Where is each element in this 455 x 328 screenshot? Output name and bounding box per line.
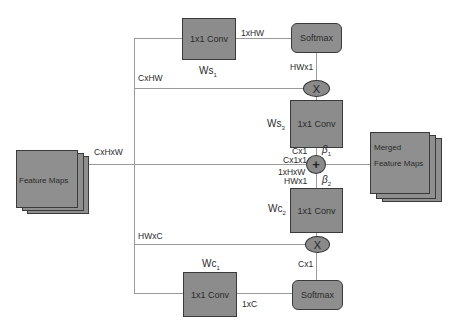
channel-softmax-to-multiply-line bbox=[316, 253, 317, 280]
spatial-skip-dims-label: CxHW bbox=[138, 73, 163, 83]
channel-multiply-node: X bbox=[305, 236, 330, 253]
channel-softmax-label: Softmax bbox=[301, 290, 334, 300]
main-horizontal-line bbox=[89, 164, 375, 165]
channel-conv2-in-dims-label: HWx1 bbox=[284, 176, 307, 186]
channel-conv1-label: 1x1 Conv bbox=[191, 290, 229, 300]
channel-conv1-out-dims-label: 1xC bbox=[242, 299, 257, 309]
spatial-softmax-out-dims-label: HWx1 bbox=[290, 62, 313, 72]
channel-conv2-label: 1x1 Conv bbox=[297, 206, 335, 216]
spatial-softmax-to-multiply-line bbox=[316, 53, 317, 81]
spatial-multiply-node: X bbox=[303, 80, 330, 97]
channel-conv2-weight-label: Wc2 bbox=[268, 203, 286, 216]
trunk-vertical-line bbox=[134, 38, 135, 294]
channel-skip-dims-label: HWxC bbox=[138, 231, 163, 241]
channel-conv1-weight-label: Wc1 bbox=[202, 258, 220, 271]
beta1-label: β1 bbox=[322, 144, 331, 157]
bottom-branch-line bbox=[134, 293, 183, 294]
multiply-icon: X bbox=[313, 83, 320, 95]
channel-conv1-box: 1x1 Conv bbox=[183, 272, 237, 317]
spatial-conv1-weight-label: Ws1 bbox=[199, 65, 217, 78]
channel-conv1-to-softmax-line bbox=[237, 293, 292, 294]
channel-softmax-out-dims-label: Cx1 bbox=[298, 259, 313, 269]
channel-softmax-box: Softmax bbox=[292, 280, 343, 310]
plus-icon: + bbox=[312, 157, 320, 172]
spatial-conv1-out-dims-label: 1xHW bbox=[241, 28, 264, 38]
spatial-conv3-label: 1x1 Conv bbox=[297, 119, 335, 129]
input-feature-maps-label: Feature Maps bbox=[19, 176, 68, 185]
spatial-conv1-label: 1x1 Conv bbox=[190, 34, 228, 44]
spatial-softmax-label: Softmax bbox=[300, 33, 333, 43]
fusion-dims-top-label: Cx1x1 bbox=[283, 155, 307, 165]
multiply-icon: X bbox=[314, 239, 321, 251]
channel-skip-line bbox=[134, 244, 305, 245]
spatial-softmax-box: Softmax bbox=[291, 23, 342, 53]
spatial-conv1-box: 1x1 Conv bbox=[182, 18, 236, 60]
channel-conv2-box: 1x1 Conv bbox=[290, 188, 343, 233]
top-branch-line bbox=[134, 38, 182, 39]
spatial-conv1-to-softmax-line bbox=[236, 38, 292, 39]
spatial-conv3-box: 1x1 Conv bbox=[290, 100, 343, 148]
spatial-skip-line bbox=[134, 88, 304, 89]
fusion-to-channel-conv2-line bbox=[316, 174, 317, 188]
output-label-line2: Feature Maps bbox=[374, 159, 423, 168]
beta2-label: β2 bbox=[322, 174, 331, 187]
input-dims-label: CxHxW bbox=[94, 147, 123, 157]
spatial-conv3-weight-label: Ws3 bbox=[267, 118, 285, 131]
output-label-line1: Merged bbox=[374, 143, 401, 152]
fusion-add-node: + bbox=[306, 155, 326, 174]
